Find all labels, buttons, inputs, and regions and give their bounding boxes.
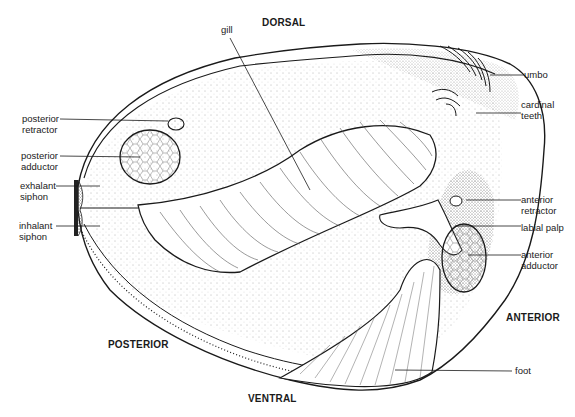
label-posterior: POSTERIOR <box>108 339 169 350</box>
label-posterior-retractor: posterior retractor <box>22 114 59 135</box>
label-posterior-adductor: posterior adductor <box>21 151 58 172</box>
clam-anatomy-diagram: DORSAL VENTRAL POSTERIOR ANTERIOR gill p… <box>0 0 575 417</box>
label-exhalant-siphon: exhalant siphon <box>20 181 56 202</box>
label-dorsal: DORSAL <box>262 17 305 28</box>
label-cardinal-teeth: cardinal teeth <box>521 100 554 121</box>
label-anterior: ANTERIOR <box>506 312 560 323</box>
label-labial-palp: labial palp <box>521 223 564 234</box>
label-gill: gill <box>221 25 233 36</box>
label-umbo: umbo <box>524 70 548 81</box>
clam-illustration <box>0 0 575 417</box>
label-inhalant-siphon: inhalant siphon <box>19 221 52 242</box>
label-foot: foot <box>515 366 531 377</box>
posterior-retractor-muscle <box>168 118 184 130</box>
anterior-retractor-muscle <box>450 196 462 206</box>
label-anterior-adductor: anterior adductor <box>521 250 558 271</box>
label-anterior-retractor: anterior retractor <box>521 195 556 216</box>
anterior-adductor-muscle <box>442 224 486 292</box>
label-ventral: VENTRAL <box>248 393 297 404</box>
